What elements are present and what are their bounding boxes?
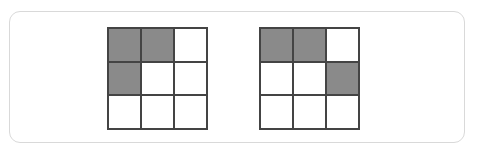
filled-cell-r0c1 xyxy=(141,28,174,62)
filled-cell-r0c0 xyxy=(260,28,293,62)
figure-panel xyxy=(9,11,465,143)
grid-right xyxy=(259,27,360,130)
empty-cell-r2c1 xyxy=(293,95,326,129)
filled-cell-r1c0 xyxy=(108,62,141,96)
empty-cell-r1c1 xyxy=(141,62,174,96)
filled-cell-r0c1 xyxy=(293,28,326,62)
empty-cell-r2c0 xyxy=(260,95,293,129)
empty-cell-r2c1 xyxy=(141,95,174,129)
filled-cell-r1c2 xyxy=(326,62,359,96)
empty-cell-r2c2 xyxy=(174,95,207,129)
empty-cell-r2c2 xyxy=(326,95,359,129)
empty-cell-r1c0 xyxy=(260,62,293,96)
empty-cell-r0c2 xyxy=(326,28,359,62)
grid-left xyxy=(107,27,208,130)
empty-cell-r1c1 xyxy=(293,62,326,96)
empty-cell-r1c2 xyxy=(174,62,207,96)
filled-cell-r0c0 xyxy=(108,28,141,62)
empty-cell-r0c2 xyxy=(174,28,207,62)
empty-cell-r2c0 xyxy=(108,95,141,129)
